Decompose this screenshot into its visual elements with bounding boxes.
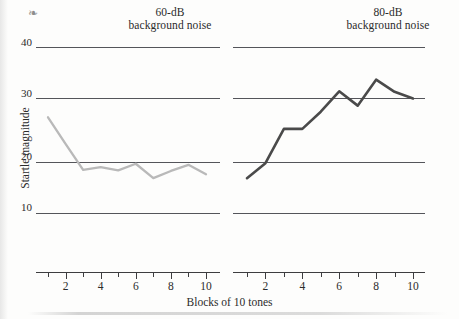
x-tick-label-10: 10: [401, 280, 425, 292]
x-tick-label-4: 4: [290, 280, 314, 292]
x-axis-tick-10: [413, 272, 414, 279]
x-axis-tick-9: [188, 272, 189, 277]
y-tick-label-30: 30: [8, 87, 32, 99]
scan-bottom-smudge: [28, 312, 448, 315]
y-tick-label-10: 10: [8, 201, 32, 213]
x-axis-tick-6: [136, 272, 137, 279]
x-axis-line-left: [36, 272, 220, 273]
x-axis-tick-2: [66, 272, 67, 279]
x-axis-tick-7: [358, 272, 359, 277]
y-tick-label-40: 40: [8, 36, 32, 48]
x-axis-tick-8: [376, 272, 377, 279]
x-axis-line-right: [233, 272, 425, 273]
x-axis-tick-2: [265, 272, 266, 279]
x-tick-label-10: 10: [194, 280, 218, 292]
x-axis-tick-4: [302, 272, 303, 279]
x-axis-tick-10: [206, 272, 207, 279]
x-axis-tick-7: [153, 272, 154, 277]
y-axis-tick-labels: 40 30 20 10: [6, 0, 32, 319]
x-tick-label-2: 2: [253, 280, 277, 292]
y-tick-label-20: 20: [8, 150, 32, 162]
x-tick-label-6: 6: [327, 280, 351, 292]
x-axis-tick-3: [83, 272, 84, 277]
x-axis-tick-9: [395, 272, 396, 277]
x-tick-label-2: 2: [54, 280, 78, 292]
x-axis-tick-3: [284, 272, 285, 277]
x-tick-label-8: 8: [159, 280, 183, 292]
x-tick-label-8: 8: [364, 280, 388, 292]
x-axis-tick-8: [171, 272, 172, 279]
x-axis-tick-4: [101, 272, 102, 279]
x-tick-label-6: 6: [124, 280, 148, 292]
figure-startle-magnitude: ❧ 60-dB background noise 80-dB backgroun…: [0, 0, 459, 319]
x-axis-tick-5: [321, 272, 322, 277]
x-axis-label: Blocks of 10 tones: [0, 296, 459, 308]
x-axis-tick-6: [339, 272, 340, 279]
x-axis-tick-1: [48, 272, 49, 277]
x-axis-tick-5: [118, 272, 119, 277]
x-tick-label-4: 4: [89, 280, 113, 292]
x-axis-tick-1: [247, 272, 248, 277]
